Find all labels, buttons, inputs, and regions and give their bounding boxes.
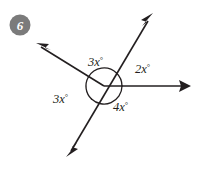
angle-diagram: 3x° 2x° 4x° 3x° 6 [0, 0, 203, 169]
arrowhead-lower-left [66, 143, 78, 157]
angle-label-right-unit: ° [147, 62, 150, 72]
arc-angle-right [117, 73, 123, 86]
angle-label-left-value: 3x [52, 92, 65, 106]
angle-label-right: 2x° [135, 62, 150, 77]
problem-number-badge-label: 6 [17, 18, 24, 33]
angle-label-top-value: 3x [87, 55, 100, 69]
arc-angle-top [88, 68, 116, 77]
angle-label-bottom: 4x° [113, 100, 128, 115]
angle-label-right-value: 2x [135, 62, 147, 76]
angle-label-left: 3x° [52, 92, 68, 107]
arc-angle-left [86, 77, 92, 99]
angle-label-bottom-value: 4x [113, 100, 125, 114]
angle-label-bottom-unit: ° [125, 100, 128, 110]
angle-label-top-unit: ° [100, 55, 103, 65]
angle-label-top: 3x° [87, 55, 103, 70]
geometry-figure: 3x° 2x° 4x° 3x° 6 [0, 0, 203, 169]
angle-label-left-unit: ° [65, 92, 68, 102]
problem-number-badge: 6 [10, 15, 31, 36]
